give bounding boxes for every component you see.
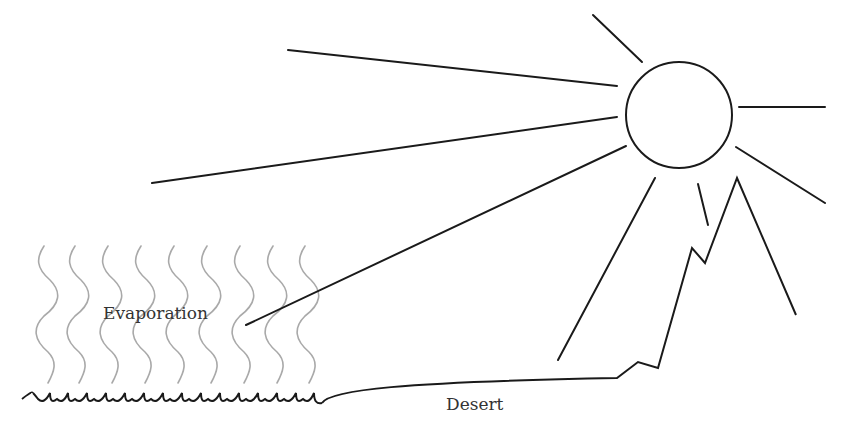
evaporation-label: Evaporation (103, 303, 208, 323)
sun-ray-lower-left (558, 178, 655, 360)
water-surface (22, 393, 322, 404)
sun-rays (152, 15, 825, 360)
sun-ray-short (698, 184, 708, 225)
desert-label: Desert (446, 394, 503, 414)
evaporation-wave (232, 246, 254, 383)
evaporation-wave (297, 246, 319, 383)
sun-ray-mid-left (152, 117, 617, 183)
evaporation-wave (36, 246, 58, 383)
sun-ray-upper-left (288, 50, 617, 86)
desert-ground-and-mountain (322, 178, 796, 403)
water-cycle-diagram (0, 0, 848, 432)
sun-ray-to-evaporation (246, 146, 626, 325)
sun-icon (626, 62, 732, 168)
sun-ray-top (593, 15, 642, 62)
evaporation-wave (67, 246, 89, 383)
sun-ray-lower-right (736, 147, 825, 203)
